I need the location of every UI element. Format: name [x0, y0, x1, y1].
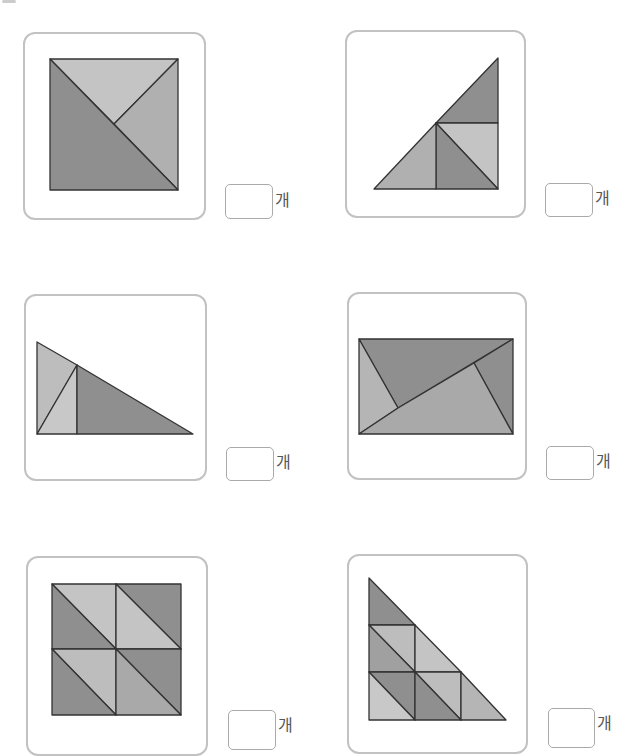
- problem-5-shape: [52, 584, 181, 715]
- problem-3-shape: [37, 342, 193, 434]
- problem-6-shape: [369, 578, 506, 720]
- problem-2-shape: [374, 58, 498, 189]
- problem-1-shape: [50, 59, 178, 190]
- problem-4-shape: [359, 339, 513, 434]
